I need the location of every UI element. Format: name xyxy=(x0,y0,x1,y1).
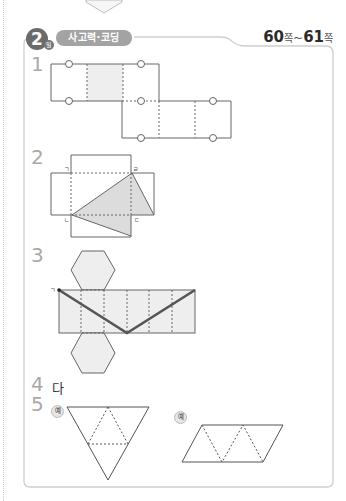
svg-text:ㄹ: ㄹ xyxy=(133,165,139,172)
svg-text:ㄴ: ㄴ xyxy=(64,216,70,223)
question-figures: ㄱ ㄹ ㄴ ㄷ ㄱ xyxy=(0,0,346,501)
q3-hexagonal-prism-net xyxy=(57,251,195,373)
q5-parallelogram-net xyxy=(182,425,283,462)
q5-triangle-net xyxy=(67,407,149,480)
q1-cube-net xyxy=(51,61,231,142)
svg-text:ㄷ: ㄷ xyxy=(134,216,140,223)
q3-vertex-label: ㄱ xyxy=(50,286,56,293)
svg-text:ㄱ: ㄱ xyxy=(64,165,70,172)
